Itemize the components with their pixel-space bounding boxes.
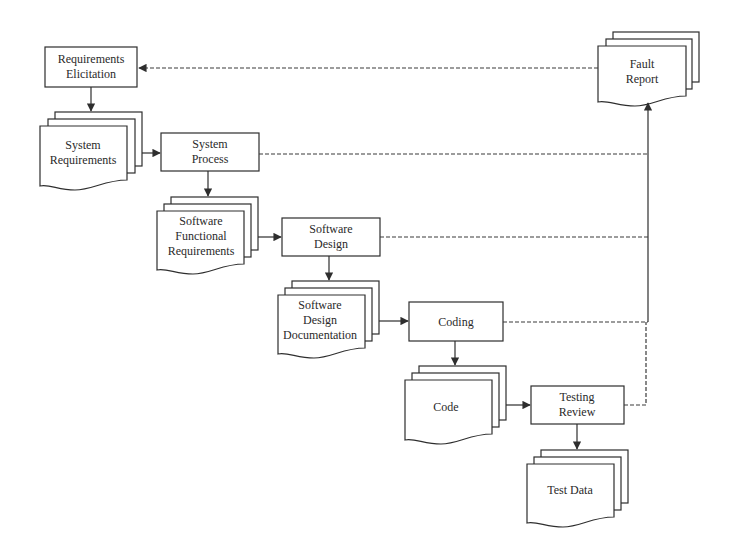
label-line: Testing xyxy=(559,390,596,405)
label-software-design-documentation: Software Design Documentation xyxy=(283,298,357,343)
label-test-data: Test Data xyxy=(547,483,592,498)
label-requirements-elicitation: Requirements Elicitation xyxy=(58,52,125,82)
label-software-design: Software Design xyxy=(309,222,352,252)
label-line: Requirements xyxy=(168,244,235,259)
label-system-process: System Process xyxy=(192,137,229,167)
label-line: Documentation xyxy=(283,328,357,343)
label-code: Code xyxy=(433,400,458,415)
label-line: Design xyxy=(283,313,357,328)
label-line: Fault xyxy=(626,57,659,72)
label-line: Test Data xyxy=(547,483,592,498)
label-line: System xyxy=(50,138,117,153)
label-system-requirements: System Requirements xyxy=(50,138,117,168)
label-line: Process xyxy=(192,152,229,167)
dashed-link-testing-review-to-rail xyxy=(624,322,646,405)
label-software-functional-requirements: Software Functional Requirements xyxy=(168,214,235,259)
label-line: Review xyxy=(559,405,596,420)
label-line: Software xyxy=(309,222,352,237)
label-line: Elicitation xyxy=(58,67,125,82)
label-line: Software xyxy=(283,298,357,313)
label-line: Code xyxy=(433,400,458,415)
label-line: Functional xyxy=(168,229,235,244)
label-line: Requirements xyxy=(50,153,117,168)
software-process-flow-diagram: Requirements Elicitation System Process … xyxy=(0,0,735,554)
label-testing-review: Testing Review xyxy=(559,390,596,420)
label-line: System xyxy=(192,137,229,152)
label-line: Report xyxy=(626,72,659,87)
label-fault-report: Fault Report xyxy=(626,57,659,87)
label-line: Design xyxy=(309,237,352,252)
label-line: Requirements xyxy=(58,52,125,67)
label-coding: Coding xyxy=(438,315,473,330)
label-line: Software xyxy=(168,214,235,229)
label-line: Coding xyxy=(438,315,473,330)
